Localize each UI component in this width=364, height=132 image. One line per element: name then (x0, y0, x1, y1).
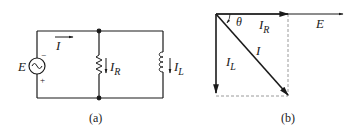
total-current-phasor-label: I (255, 43, 261, 58)
sine-wave-icon (32, 64, 42, 69)
inductor-icon (159, 52, 163, 72)
figure: E − + I IR IL (a) θ IR E IL I (b) (0, 0, 364, 132)
inductor-current-label: IL (173, 59, 184, 77)
voltage-phasor-label: E (315, 16, 324, 31)
circuit-diagram (29, 29, 170, 100)
source-voltage-label: E (17, 59, 26, 74)
resistor-phasor-label: IR (258, 17, 269, 35)
junction-dot-bottom (97, 96, 101, 100)
caption-b: (b) (281, 111, 295, 125)
resistor-current-label: IR (109, 59, 120, 77)
angle-arc-icon (227, 14, 230, 23)
source-minus-sign: − (41, 50, 46, 60)
caption-a: (a) (89, 111, 102, 125)
junction-dot-top (97, 29, 101, 33)
inductor-phasor-label: IL (225, 54, 236, 72)
total-current-label: I (55, 38, 61, 53)
angle-theta-label: θ (236, 15, 242, 29)
source-plus-sign: + (40, 75, 45, 85)
resistor-icon (96, 55, 102, 74)
